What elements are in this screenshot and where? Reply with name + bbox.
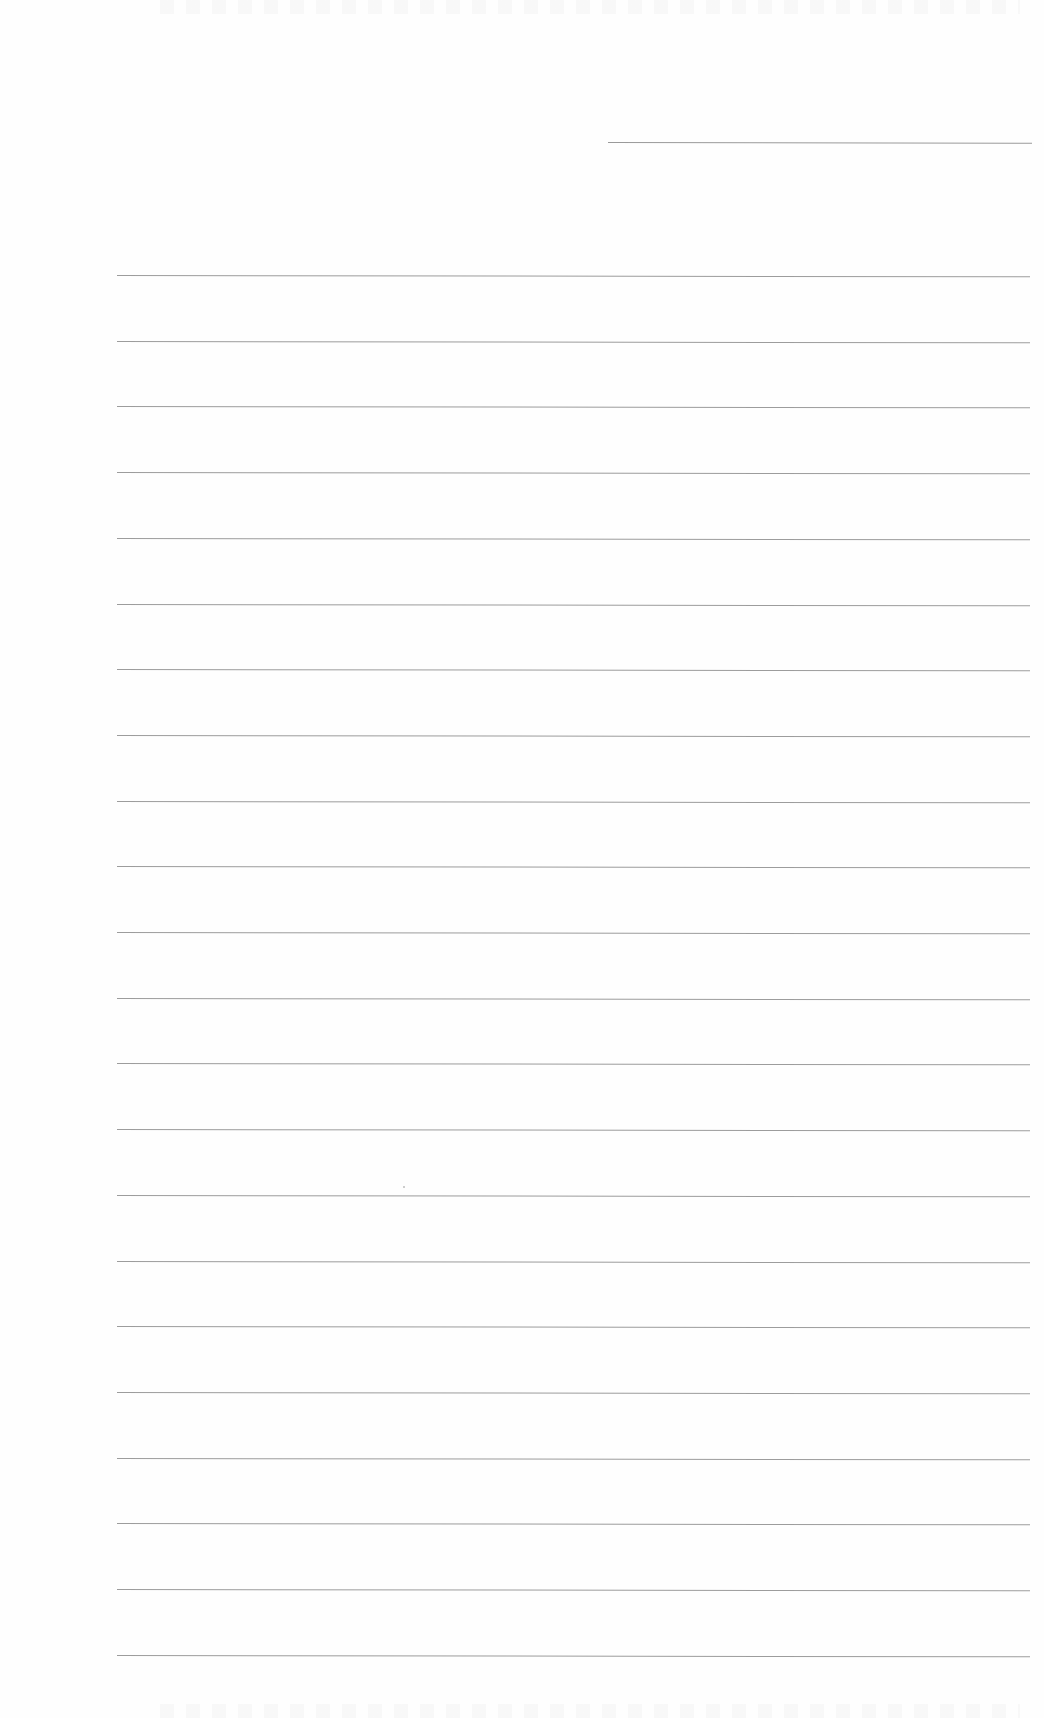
ruled-line bbox=[117, 472, 1030, 474]
paper-speck bbox=[403, 1186, 405, 1188]
ruled-line bbox=[117, 801, 1030, 803]
bleed-through-marks-bottom bbox=[160, 1704, 1020, 1718]
ruled-line bbox=[117, 735, 1030, 737]
ruled-line bbox=[117, 1063, 1030, 1065]
ruled-line bbox=[117, 998, 1030, 1000]
ruled-line bbox=[117, 341, 1030, 343]
ruled-line bbox=[117, 1392, 1030, 1394]
ruled-line bbox=[117, 1129, 1030, 1131]
ruled-line bbox=[117, 1523, 1030, 1525]
lined-paper-page bbox=[0, 0, 1044, 1718]
ruled-line bbox=[117, 1458, 1030, 1460]
ruled-line bbox=[117, 1589, 1030, 1591]
ruled-line bbox=[117, 406, 1030, 408]
ruled-line bbox=[117, 538, 1030, 540]
ruled-line bbox=[117, 1195, 1030, 1197]
ruled-line bbox=[117, 1326, 1030, 1328]
ruled-line bbox=[117, 604, 1030, 606]
ruled-line bbox=[117, 669, 1030, 671]
bleed-through-marks-top bbox=[160, 0, 1020, 14]
ruled-line bbox=[117, 1261, 1030, 1263]
ruled-line bbox=[117, 932, 1030, 934]
ruled-line bbox=[117, 1655, 1030, 1657]
ruled-line bbox=[117, 275, 1030, 277]
ruled-line bbox=[117, 866, 1030, 868]
header-date-line bbox=[608, 142, 1032, 144]
